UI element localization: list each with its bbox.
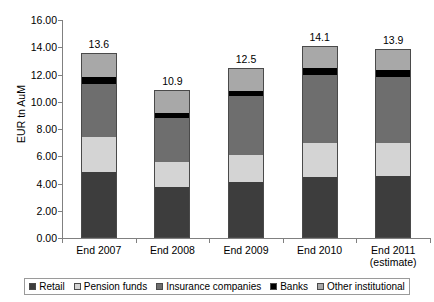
bar-segment[interactable] (81, 53, 117, 78)
x-axis-tick-mark (62, 238, 63, 243)
legend-swatch-icon (317, 283, 324, 290)
legend-swatch-icon (29, 283, 36, 290)
bar-stack[interactable] (228, 68, 264, 238)
bar-segment[interactable] (302, 143, 338, 177)
y-axis-tick-mark (58, 211, 62, 212)
bar-total-label: 10.9 (162, 75, 182, 87)
bar-segment[interactable] (375, 49, 411, 71)
legend-swatch-icon (270, 283, 277, 290)
bar-segment[interactable] (228, 182, 264, 238)
legend-item[interactable]: Insurance companies (156, 281, 261, 292)
legend-swatch-icon (74, 283, 81, 290)
bar-group[interactable]: 10.9 (154, 20, 190, 238)
bar-total-label: 12.5 (236, 53, 256, 65)
bar-group[interactable]: 12.5 (228, 20, 264, 238)
bar-segment[interactable] (81, 172, 117, 238)
x-axis-tick-mark (283, 238, 284, 243)
bar-segment[interactable] (302, 75, 338, 143)
bar-total-label: 13.6 (89, 38, 109, 50)
legend-item-label: Pension funds (84, 281, 147, 292)
bar-segment[interactable] (375, 143, 411, 176)
x-axis-category-name: End 2009 (224, 244, 269, 256)
bar-segment[interactable] (302, 46, 338, 68)
legend-item[interactable]: Pension funds (74, 281, 147, 292)
y-axis-tick-label: 14.00 (13, 42, 57, 53)
y-axis-tick-label: 12.00 (13, 69, 57, 80)
x-axis-category-name: End 2010 (297, 244, 342, 256)
legend-item-label: Retail (39, 281, 65, 292)
y-axis-tick-label: 2.00 (13, 206, 57, 217)
y-axis-line (62, 20, 63, 238)
bar-stack[interactable] (375, 49, 411, 238)
bar-segment[interactable] (154, 187, 190, 238)
bar-group[interactable]: 14.1 (302, 20, 338, 238)
y-axis-tick-mark (58, 156, 62, 157)
chart-legend: RetailPension fundsInsurance companiesBa… (24, 278, 410, 295)
bar-segment[interactable] (228, 68, 264, 91)
y-axis-tick-label: 0.00 (13, 233, 57, 244)
y-axis-tick-label: 10.00 (13, 97, 57, 108)
x-axis-tick-mark (430, 238, 431, 243)
x-axis-category-name: End 2011 (371, 244, 415, 256)
x-axis-tick-mark (356, 238, 357, 243)
bar-stack[interactable] (154, 90, 190, 238)
legend-item[interactable]: Retail (29, 281, 65, 292)
stacked-bar-chart: EUR tn AuM 0.002.004.006.008.0010.0012.0… (0, 0, 434, 302)
x-axis-tick-mark (209, 238, 210, 243)
y-axis-tick-mark (58, 20, 62, 21)
bar-segment[interactable] (228, 96, 264, 155)
bar-group[interactable]: 13.6 (81, 20, 117, 238)
bar-stack[interactable] (302, 46, 338, 238)
bar-total-label: 14.1 (309, 31, 329, 43)
bar-group[interactable]: 13.9 (375, 20, 411, 238)
bar-segment[interactable] (81, 137, 117, 172)
y-axis-tick-label: 8.00 (13, 124, 57, 135)
bar-segment[interactable] (154, 90, 190, 113)
legend-item[interactable]: Banks (270, 281, 308, 292)
bar-segment[interactable] (81, 77, 117, 84)
bar-segment[interactable] (154, 118, 190, 162)
bar-segment[interactable] (228, 155, 264, 182)
legend-swatch-icon (156, 283, 163, 290)
bar-segment[interactable] (81, 84, 117, 137)
legend-item-label: Other institutional (327, 281, 405, 292)
y-axis-tick-mark (58, 129, 62, 130)
bar-segment[interactable] (154, 162, 190, 187)
y-axis-tick-mark (58, 102, 62, 103)
y-axis-tick-label: 16.00 (13, 15, 57, 26)
legend-item-label: Insurance companies (166, 281, 261, 292)
x-axis-tick-mark (136, 238, 137, 243)
y-axis-tick-mark (58, 47, 62, 48)
x-axis-category-name: End 2007 (76, 244, 121, 256)
x-axis-line (62, 238, 430, 239)
bar-total-label: 13.9 (383, 34, 403, 46)
legend-item-label: Banks (280, 281, 308, 292)
legend-item[interactable]: Other institutional (317, 281, 405, 292)
y-axis-tick-label: 4.00 (13, 178, 57, 189)
bar-stack[interactable] (81, 53, 117, 238)
y-axis-tick-mark (58, 184, 62, 185)
bar-segment[interactable] (302, 177, 338, 238)
bar-segment[interactable] (375, 176, 411, 238)
bar-segment[interactable] (375, 77, 411, 143)
x-axis-category-sublabel: (estimate) (343, 256, 434, 268)
y-axis-tick-mark (58, 75, 62, 76)
plot-area: 0.002.004.006.008.0010.0012.0014.0016.00… (62, 20, 430, 238)
y-axis-tick-label: 6.00 (13, 151, 57, 162)
x-axis-category-name: End 2008 (150, 244, 195, 256)
x-axis-category-label: End 2011(estimate) (343, 244, 434, 268)
